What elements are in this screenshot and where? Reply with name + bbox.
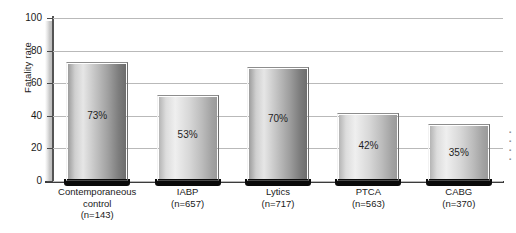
tickmark-100 xyxy=(47,18,53,19)
y-tick-label-40: 40 xyxy=(8,111,42,121)
category-label-line: (n=370) xyxy=(399,198,516,210)
bar-face xyxy=(249,69,307,179)
y-tick-label-100: 100 xyxy=(8,13,42,23)
y-tick-label-20: 20 xyxy=(8,143,42,153)
bar-cabg[interactable]: 35% xyxy=(428,124,490,181)
plot-area: 73%53%70%42%35% xyxy=(52,18,504,181)
y-axis-gradient-band xyxy=(45,21,52,181)
tickmark-80 xyxy=(47,51,53,52)
category-label-cabg: CABG(n=370) xyxy=(399,186,516,209)
bar-value-label: 70% xyxy=(247,113,309,124)
tickmark-40 xyxy=(47,116,53,117)
category-label-line: (n=143) xyxy=(37,209,157,221)
bar-body xyxy=(66,62,128,181)
tickmark-20 xyxy=(47,148,53,149)
fatality-rate-bar-chart: Fatality rate 020406080100 73%53%70%42%3… xyxy=(0,0,516,233)
category-label-line: CABG xyxy=(399,186,516,198)
page-margin-text-clipped: ▪▪▪▪ xyxy=(509,128,516,186)
bar-iabp[interactable]: 53% xyxy=(157,95,219,181)
gridline-100 xyxy=(52,18,503,19)
tickmark-0 xyxy=(47,181,53,182)
bar-contemporaneous-control[interactable]: 73% xyxy=(66,62,128,181)
y-tick-label-80: 80 xyxy=(8,46,42,56)
bar-value-label: 35% xyxy=(428,147,490,158)
tickmark-60 xyxy=(47,83,53,84)
bar-value-label: 73% xyxy=(66,110,128,121)
bar-ptca[interactable]: 42% xyxy=(337,113,399,181)
bar-value-label: 53% xyxy=(157,129,219,140)
y-tick-label-60: 60 xyxy=(8,78,42,88)
bar-body xyxy=(247,67,309,181)
bar-value-label: 42% xyxy=(337,140,399,151)
bar-face xyxy=(68,64,126,179)
gridline-80 xyxy=(52,51,503,52)
bar-lytics[interactable]: 70% xyxy=(247,67,309,181)
y-tick-label-0: 0 xyxy=(8,176,42,186)
